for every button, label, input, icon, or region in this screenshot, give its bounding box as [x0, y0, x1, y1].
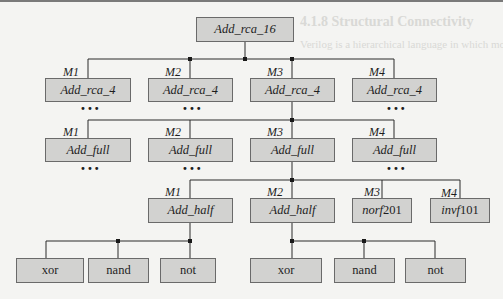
module-box-l1: Add_rca_4: [45, 78, 131, 102]
gate-box: xor: [250, 258, 322, 283]
module-box-l3: Add_half: [250, 198, 335, 223]
module-box-l2: Add_full: [250, 138, 335, 162]
ellipsis-dots: •••: [386, 163, 407, 174]
gate-box: nand: [88, 258, 149, 283]
ellipsis-dots: •••: [386, 103, 407, 114]
module-name-suffix: 101: [460, 203, 479, 218]
module-name-italic: norf: [362, 203, 383, 218]
module-box-l1: Add_rca_4: [352, 78, 437, 102]
module-box-root: Add_rca_16: [196, 17, 294, 42]
module-name-suffix: 201: [383, 203, 402, 218]
module-box-l2: Add_full: [45, 138, 131, 162]
gate-box: xor: [16, 258, 84, 283]
module-box-l3: Add_half: [148, 198, 233, 223]
module-box-l3: invf101: [430, 198, 490, 223]
module-box-l2: Add_full: [352, 138, 437, 162]
module-name-italic: invf: [441, 203, 460, 218]
module-box-l2: Add_full: [148, 138, 233, 162]
ellipsis-dots: •••: [182, 103, 203, 114]
ellipsis-dots: •••: [182, 163, 203, 174]
gate-box: nand: [334, 258, 395, 283]
module-box-l1: Add_rca_4: [148, 78, 233, 102]
ellipsis-dots: •••: [80, 103, 101, 114]
ellipsis-dots: •••: [80, 163, 101, 174]
module-box-l1: Add_rca_4: [250, 78, 335, 102]
gate-box: not: [160, 258, 216, 283]
module-box-l3: norf201: [352, 198, 412, 223]
gate-box: not: [405, 258, 466, 283]
